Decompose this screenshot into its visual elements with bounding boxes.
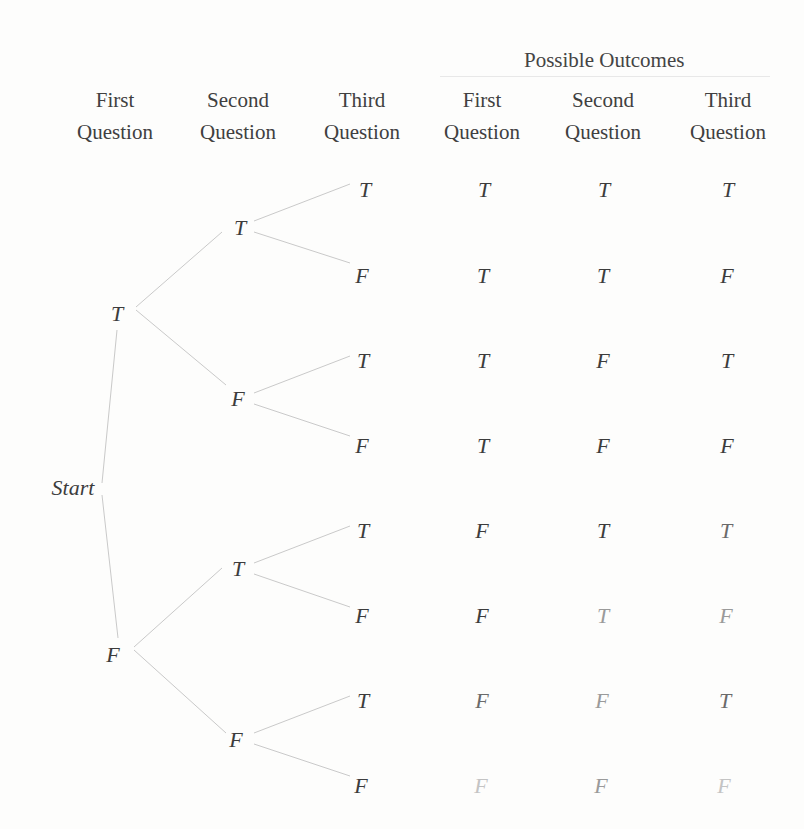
outcome-cell: F [596, 348, 609, 374]
outcome-cell: T [721, 348, 733, 374]
outcome-cell: T [719, 688, 731, 714]
tree-level3-node: T [359, 177, 371, 203]
outcome-cell: F [594, 773, 607, 799]
tree-level3-node: T [357, 688, 369, 714]
outcome-cell: F [720, 263, 733, 289]
outcome-cell: T [597, 518, 609, 544]
tree-level3-node: T [357, 518, 369, 544]
outcome-cell: F [717, 773, 730, 799]
outcome-cell: F [720, 433, 733, 459]
outcome-cell: T [597, 603, 609, 629]
tree-level2-node: T [232, 556, 244, 582]
outcome-cell: T [720, 518, 732, 544]
tree-level1-node: F [106, 642, 119, 668]
outcome-cell: T [478, 177, 490, 203]
outcome-cell: T [598, 177, 610, 203]
outcome-cell: F [719, 603, 732, 629]
outcome-cell: T [477, 348, 489, 374]
outcome-cell: F [475, 518, 488, 544]
tree-level3-node: F [354, 773, 367, 799]
outcome-cell: F [475, 603, 488, 629]
tree-level3-node: T [357, 348, 369, 374]
tree-level3-node: F [355, 603, 368, 629]
outcome-cell: T [477, 263, 489, 289]
outcome-cell: T [597, 263, 609, 289]
tree-level3-node: F [355, 263, 368, 289]
tree-level2-node: F [229, 727, 242, 753]
tree-level2-node: F [231, 386, 244, 412]
tree-root-start: Start [52, 475, 95, 501]
outcome-cell: F [595, 688, 608, 714]
outcome-cell: T [722, 177, 734, 203]
tree-level2-node: T [234, 215, 246, 241]
outcome-cell: F [596, 433, 609, 459]
tree-branches [0, 0, 804, 829]
tree-level3-node: F [355, 433, 368, 459]
outcome-cell: F [474, 773, 487, 799]
outcome-cell: T [477, 433, 489, 459]
tree-level1-node: T [111, 301, 123, 327]
outcome-cell: F [475, 688, 488, 714]
